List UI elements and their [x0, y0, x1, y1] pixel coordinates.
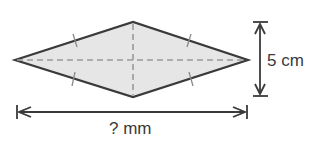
vertical-dimension-arrow	[253, 22, 268, 96]
rhombus-diagram	[0, 0, 321, 143]
horizontal-dimension-arrow	[17, 105, 247, 119]
horizontal-diagonal-label: ? mm	[109, 119, 152, 139]
vertical-diagonal-label: 5 cm	[267, 51, 304, 71]
